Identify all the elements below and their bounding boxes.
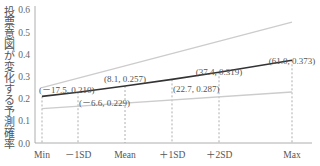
y-axis-label: 投票意図が変化する予測確率: [4, 5, 15, 151]
y-axis-ticks: 0.00.10.20.30.40.50.6: [18, 5, 30, 148]
x-axis-ticks: Min－1SDMean＋1SD＋2SDMax: [34, 150, 301, 160]
y-tick-label: 0.1: [18, 116, 30, 126]
y-tick-label: 0.6: [18, 5, 30, 15]
point-annotation: (61.0, 0.373): [269, 56, 316, 66]
x-tick-label: Min: [34, 150, 50, 160]
y-tick-label: 0.5: [18, 28, 30, 38]
y-label-char: 率: [4, 137, 15, 151]
point-annotation: (8.1, 0.257): [104, 74, 146, 84]
point-annotation: (－6.6, 0.229): [79, 98, 130, 108]
x-tick-label: －1SD: [65, 150, 92, 160]
point-annotation: (22.7, 0.287): [173, 84, 220, 94]
line-chart: 投票意図が変化する予測確率 0.00.10.20.30.40.50.6 (－17…: [0, 0, 320, 166]
ci-line: [42, 22, 292, 87]
x-tick-label: ＋2SD: [206, 150, 233, 160]
y-tick-label: 0.3: [18, 72, 30, 82]
point-annotation: (37.4, 0.319): [196, 67, 243, 77]
confidence-lines: [42, 22, 292, 108]
x-tick-label: Max: [283, 150, 301, 160]
y-tick-label: 0.0: [18, 139, 30, 149]
x-tick-label: Mean: [114, 150, 136, 160]
y-tick-label: 0.2: [18, 94, 30, 104]
point-annotation: (－17.5, 0.210): [39, 85, 95, 95]
x-tick-label: ＋1SD: [159, 150, 186, 160]
y-tick-label: 0.4: [18, 50, 30, 60]
